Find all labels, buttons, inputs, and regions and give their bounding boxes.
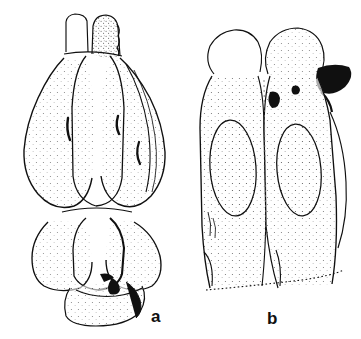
- apical-lobe-left: [198, 26, 268, 84]
- basal-region: [196, 228, 348, 296]
- figure-label-b: b: [267, 310, 277, 327]
- figure-plate: a b: [0, 0, 361, 339]
- figure-label-a: a: [151, 308, 160, 325]
- dark-pit-right: [292, 86, 301, 95]
- panel-a-drawing: [18, 10, 172, 330]
- panel-b-drawing: [196, 24, 352, 296]
- illustration-canvas: [0, 0, 361, 339]
